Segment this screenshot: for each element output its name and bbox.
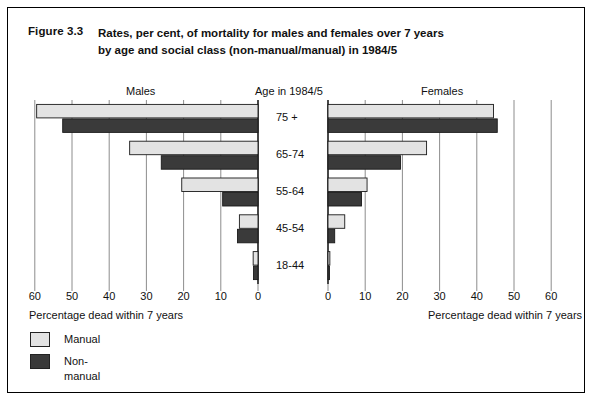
bar-males-non-manual xyxy=(254,266,258,280)
bar-males-manual xyxy=(253,252,258,266)
female-tick-label: 30 xyxy=(428,290,452,302)
male-tick-label: 10 xyxy=(209,290,233,302)
figure-frame: Figure 3.3 Rates, per cent, of mortality… xyxy=(7,7,585,393)
female-tick-label: 10 xyxy=(353,290,377,302)
category-label-5564: 55-64 xyxy=(276,185,332,197)
female-tick-label: 0 xyxy=(316,290,340,302)
legend-label: Non-manual xyxy=(64,354,100,384)
category-label-75+: 75 + xyxy=(276,111,332,123)
male-tick-label: 20 xyxy=(172,290,196,302)
bar-females-manual xyxy=(328,178,367,192)
female-tick-label: 50 xyxy=(502,290,526,302)
bar-females-non-manual xyxy=(328,193,361,207)
female-tick-label: 60 xyxy=(539,290,563,302)
bar-females-non-manual xyxy=(328,156,401,170)
bar-males-non-manual xyxy=(238,229,258,243)
legend-swatch xyxy=(30,354,50,369)
male-axis-title: Percentage dead within 7 years xyxy=(29,309,183,321)
female-axis-title: Percentage dead within 7 years xyxy=(428,309,582,321)
bar-males-non-manual xyxy=(63,119,258,132)
female-tick-label: 20 xyxy=(390,290,414,302)
bar-males-manual xyxy=(239,215,258,229)
female-tick-label: 40 xyxy=(465,290,489,302)
bar-males-manual xyxy=(37,104,258,118)
bar-males-manual xyxy=(182,178,258,192)
bar-males-non-manual xyxy=(161,156,258,170)
bar-males-manual xyxy=(130,141,258,155)
category-label-4554: 45-54 xyxy=(276,222,332,234)
legend-swatch xyxy=(30,332,50,347)
bar-females-non-manual xyxy=(328,119,497,132)
category-label-6574: 65-74 xyxy=(276,148,332,160)
male-tick-label: 60 xyxy=(23,290,47,302)
category-label-1844: 18-44 xyxy=(276,259,332,271)
male-tick-label: 40 xyxy=(97,290,121,302)
bar-females-manual xyxy=(328,141,427,155)
male-tick-label: 30 xyxy=(134,290,158,302)
bar-females-manual xyxy=(328,104,494,118)
bar-males-non-manual xyxy=(223,193,258,207)
legend-label: Manual xyxy=(64,332,100,347)
male-tick-label: 50 xyxy=(60,290,84,302)
male-tick-label: 0 xyxy=(246,290,270,302)
